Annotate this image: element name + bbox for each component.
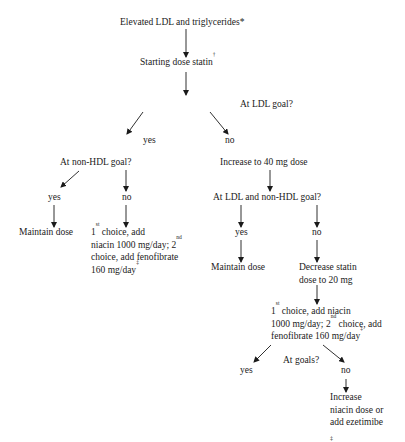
- arrow-ldl-no: [210, 112, 228, 134]
- goals-yes-label: yes: [240, 364, 253, 377]
- text: niacin 1000 mg/day; 2: [91, 240, 176, 250]
- decrease-line2: dose to 20 mg: [299, 274, 357, 287]
- starting-statin-node: Starting dose statin†: [140, 56, 216, 69]
- ordinal-sup: st: [96, 221, 100, 227]
- both-goals-yes-label: yes: [235, 226, 248, 239]
- start-node: Elevated LDL and triglycerides*: [120, 16, 244, 29]
- start-footnote-mark: *: [240, 17, 245, 27]
- left-add-line2: niacin 1000 mg/day; 2nd: [91, 239, 182, 252]
- right-add-line3: fenofibrate 160 mg/day‡: [271, 330, 382, 343]
- start-node-text: Elevated LDL and triglycerides: [120, 17, 240, 27]
- footnote-mark: ‡: [360, 325, 363, 331]
- ldl-no-label: no: [225, 134, 235, 147]
- nonhdl-no-label: no: [122, 191, 132, 204]
- text: 1: [91, 227, 96, 237]
- text: choice, add niacin: [279, 306, 350, 316]
- final-line3: add ezetimibe: [330, 416, 383, 429]
- final-line1: Increase: [330, 391, 383, 404]
- left-add-line1: 1st choice, add: [91, 226, 182, 239]
- text: 160 mg/day: [91, 265, 136, 275]
- right-add-line2: 1000 mg/day; 2nd choice, add: [271, 318, 382, 331]
- final-action-node: Increase niacin dose or add ezetimibe: [330, 391, 383, 429]
- goals-no-label: no: [341, 364, 351, 377]
- right-add-therapy-node: 1st choice, add niacin 1000 mg/day; 2nd …: [271, 305, 382, 343]
- text: 1: [271, 306, 276, 316]
- ordinal-sup: st: [276, 300, 280, 306]
- increase-40mg-node: Increase to 40 mg dose: [220, 156, 308, 169]
- decrease-line1: Decrease statin: [299, 261, 357, 274]
- final-line2: niacin dose or: [330, 404, 383, 417]
- arrow-goals-no: [323, 345, 344, 362]
- footnote-mark-bottom: ‡: [330, 432, 333, 442]
- arrow-goals-yes: [254, 345, 271, 362]
- both-goals-no-label: no: [312, 226, 322, 239]
- footnote-mark: ‡: [136, 259, 139, 265]
- text: fenofibrate 160 mg/day: [271, 331, 360, 341]
- arrow-nonhdl-yes: [61, 171, 79, 187]
- ordinal-sup: nd: [331, 313, 337, 319]
- decision-nonhdl-goal: At non-HDL goal?: [60, 156, 131, 169]
- nonhdl-yes-label: yes: [48, 191, 61, 204]
- right-add-line1: 1st choice, add niacin: [271, 305, 382, 318]
- left-maintain-dose: Maintain dose: [19, 226, 73, 239]
- decision-both-goals: At LDL and non-HDL goal?: [213, 191, 321, 204]
- left-add-line4: 160 mg/day‡: [91, 264, 182, 277]
- arrow-ldl-yes: [127, 112, 143, 134]
- starting-statin-text: Starting dose statin: [140, 57, 213, 67]
- ldl-yes-label: yes: [143, 134, 156, 147]
- ordinal-sup: nd: [176, 234, 182, 240]
- right-maintain-dose: Maintain dose: [211, 261, 265, 274]
- decision-at-goals: At goals?: [283, 354, 319, 367]
- decrease-statin-node: Decrease statin dose to 20 mg: [299, 261, 357, 286]
- left-add-therapy-node: 1st choice, add niacin 1000 mg/day; 2nd …: [91, 226, 182, 276]
- text: choice, add: [99, 227, 145, 237]
- text: 1000 mg/day; 2: [271, 319, 331, 329]
- decision-ldl-goal: At LDL goal?: [240, 98, 293, 111]
- text: choice, add: [336, 319, 382, 329]
- statin-footnote-mark: †: [213, 51, 216, 57]
